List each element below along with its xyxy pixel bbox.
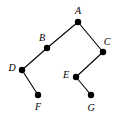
graph-edge-e-g [76, 77, 91, 95]
graph-node-c [100, 49, 106, 55]
graph-edge-d-f [22, 70, 38, 95]
node-label-d: D [8, 63, 15, 73]
graph-node-f [35, 92, 41, 98]
graph-node-g [88, 92, 94, 98]
graph-edge-c-e [76, 52, 103, 77]
tree-diagram: ABCDEFG [0, 0, 116, 119]
graph-canvas [0, 0, 116, 119]
graph-node-e [73, 74, 79, 80]
graph-node-a [75, 19, 81, 25]
node-label-b: B [39, 33, 45, 43]
graph-edge-b-d [22, 48, 47, 70]
node-label-f: F [35, 102, 41, 112]
node-label-a: A [75, 6, 81, 16]
graph-node-d [19, 67, 25, 73]
graph-node-b [44, 45, 50, 51]
node-label-c: C [104, 37, 111, 47]
graph-edge-a-b [47, 22, 78, 48]
node-label-g: G [87, 103, 94, 113]
graph-edge-a-c [78, 22, 103, 52]
node-label-e: E [63, 70, 69, 80]
